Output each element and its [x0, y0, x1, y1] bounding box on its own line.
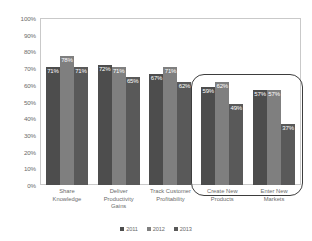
bar-value-label: 71%	[165, 68, 176, 74]
bar[interactable]: 78%	[60, 56, 74, 185]
bar[interactable]: 49%	[229, 104, 243, 185]
bar[interactable]: 71%	[74, 67, 88, 185]
bar-value-label: 57%	[254, 91, 265, 97]
bar-chart: 100%90%80%70%60%50%40%30%20%10%0% 71%78%…	[0, 0, 312, 241]
x-axis-category-label: Deliver Productivity Gains	[93, 188, 145, 211]
bar-group: 67%71%62%	[145, 19, 197, 185]
y-axis-tick-label: 80%	[24, 48, 36, 55]
bar[interactable]: 71%	[46, 67, 60, 185]
bar[interactable]: 59%	[201, 87, 215, 185]
bar-value-label: 67%	[151, 75, 162, 81]
bar-value-label: 71%	[75, 68, 86, 74]
chart-legend: 201120122013	[0, 226, 312, 232]
x-axis-category-label: Enter New Markets	[248, 188, 300, 203]
bar[interactable]: 72%	[98, 65, 112, 185]
y-axis-tick-label: 50%	[24, 98, 36, 105]
bar-value-label: 57%	[268, 91, 279, 97]
bar[interactable]: 71%	[163, 67, 177, 185]
bar[interactable]: 62%	[215, 82, 229, 185]
bar[interactable]: 57%	[267, 90, 281, 185]
y-axis-tick-label: 10%	[24, 165, 36, 172]
legend-label: 2012	[153, 226, 165, 232]
bar-value-label: 37%	[282, 125, 293, 131]
bar[interactable]: 62%	[177, 82, 191, 185]
legend-color-swatch	[120, 227, 124, 231]
legend-label: 2013	[180, 226, 192, 232]
bar-value-label: 62%	[179, 83, 190, 89]
y-axis-tick-label: 0%	[27, 182, 36, 189]
y-axis-tick-label: 30%	[24, 131, 36, 138]
y-axis-tick-label: 40%	[24, 115, 36, 122]
bar[interactable]: 67%	[149, 74, 163, 185]
y-axis-tick-label: 70%	[24, 65, 36, 72]
bar-value-label: 78%	[61, 57, 72, 63]
bar-group: 59%62%49%	[196, 19, 248, 185]
bar-value-label: 71%	[47, 68, 58, 74]
bar-group: 71%78%71%	[41, 19, 93, 185]
legend-item[interactable]: 2012	[147, 226, 165, 232]
bar-value-label: 72%	[99, 66, 110, 72]
bar-group: 72%71%65%	[93, 19, 145, 185]
y-axis: 100%90%80%70%60%50%40%30%20%10%0%	[0, 18, 38, 185]
y-axis-tick-label: 90%	[24, 31, 36, 38]
bar-value-label: 59%	[203, 88, 214, 94]
legend-label: 2011	[126, 226, 138, 232]
legend-item[interactable]: 2011	[120, 226, 138, 232]
legend-color-swatch	[147, 227, 151, 231]
bar[interactable]: 57%	[253, 90, 267, 185]
x-axis-category-label: Share Knowledge	[41, 188, 93, 203]
bar[interactable]: 65%	[126, 77, 140, 185]
legend-color-swatch	[174, 227, 178, 231]
bar-value-label: 65%	[127, 78, 138, 84]
bar[interactable]: 37%	[281, 124, 295, 185]
bar-value-label: 62%	[217, 83, 228, 89]
y-axis-tick-label: 100%	[21, 15, 36, 22]
bar-value-label: 71%	[113, 68, 124, 74]
legend-item[interactable]: 2013	[174, 226, 192, 232]
x-axis-category-labels: Share KnowledgeDeliver Productivity Gain…	[41, 188, 300, 218]
bar[interactable]: 71%	[112, 67, 126, 185]
x-axis-category-label: Create New Products	[196, 188, 248, 203]
plot-area: 71%78%71%72%71%65%67%71%62%59%62%49%57%5…	[41, 19, 300, 185]
bar-value-label: 49%	[231, 105, 242, 111]
x-axis-category-label: Track Customer Profitability	[145, 188, 197, 203]
y-axis-tick-label: 20%	[24, 148, 36, 155]
bar-group: 57%57%37%	[248, 19, 300, 185]
y-axis-tick-label: 60%	[24, 81, 36, 88]
